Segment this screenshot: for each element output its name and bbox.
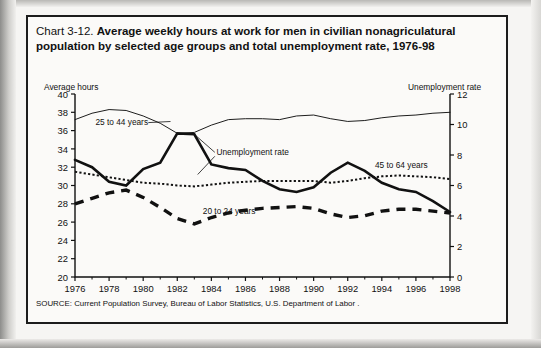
y2-tick-label: 12 xyxy=(457,89,467,100)
y2-tick-label: 8 xyxy=(457,150,462,161)
y2-tick-label: 0 xyxy=(457,272,462,283)
x-tick-label: 1984 xyxy=(201,283,222,294)
y-tick-label: 40 xyxy=(58,89,68,100)
leader-line-25-44 xyxy=(148,122,170,123)
scan-edge-right xyxy=(531,0,541,348)
chart-plot: 2022242628303234363840024681012197619781… xyxy=(26,15,504,320)
y-tick-label: 20 xyxy=(58,272,68,283)
y-tick-label: 24 xyxy=(58,235,68,246)
series-label: 45 to 64 years xyxy=(375,160,428,170)
series-line xyxy=(75,190,450,224)
source-note: SOURCE: Current Population Survey, Burea… xyxy=(36,299,360,308)
y-tick-label: 36 xyxy=(58,125,68,136)
x-tick-label: 1996 xyxy=(405,283,426,294)
x-tick-label: 1998 xyxy=(440,283,461,294)
y-tick-label: 22 xyxy=(58,253,68,264)
y2-tick-label: 6 xyxy=(457,180,462,191)
y2-tick-label: 10 xyxy=(457,119,467,130)
y2-tick-label: 2 xyxy=(457,241,462,252)
x-tick-label: 1994 xyxy=(371,283,392,294)
series-label: Unemployment rate xyxy=(216,147,289,157)
x-tick-label: 1986 xyxy=(235,283,256,294)
series-label: 20 to 24 years xyxy=(203,206,256,216)
x-tick-label: 1982 xyxy=(167,283,188,294)
y-tick-label: 34 xyxy=(58,144,68,155)
scan-edge-left xyxy=(0,0,16,348)
x-tick-label: 1978 xyxy=(99,283,120,294)
x-tick-label: 1976 xyxy=(65,283,86,294)
y-tick-label: 38 xyxy=(58,107,68,118)
y-tick-label: 32 xyxy=(58,162,68,173)
leader-line-unemployment xyxy=(194,134,215,152)
x-tick-label: 1990 xyxy=(303,283,324,294)
y-tick-label: 28 xyxy=(58,198,68,209)
series-label: 25 to 44 years xyxy=(95,117,148,127)
scan-edge-top xyxy=(0,0,541,7)
y-tick-label: 26 xyxy=(58,217,68,228)
scanned-page: Chart 3-12. Average weekly hours at work… xyxy=(0,0,541,348)
x-tick-label: 1980 xyxy=(133,283,154,294)
series-line xyxy=(75,133,450,212)
x-tick-label: 1992 xyxy=(337,283,358,294)
x-tick-label: 1988 xyxy=(269,283,290,294)
scan-edge-bottom xyxy=(0,339,541,348)
y-tick-label: 30 xyxy=(58,180,68,191)
y2-tick-label: 4 xyxy=(457,211,462,222)
